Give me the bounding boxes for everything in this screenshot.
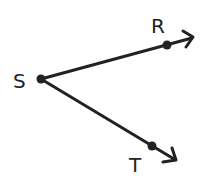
point-t <box>148 142 157 151</box>
point-s <box>37 75 46 84</box>
angle-diagram: S R T <box>0 0 201 183</box>
point-r <box>163 41 172 50</box>
label-r: R <box>151 14 165 38</box>
label-s: S <box>13 69 26 93</box>
label-t: T <box>128 153 142 177</box>
